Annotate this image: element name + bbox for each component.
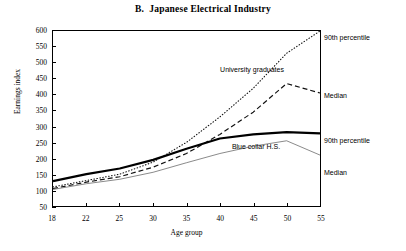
chart-series-lines <box>53 31 320 206</box>
chart-annotation: Blue collar H.S. <box>232 143 280 150</box>
chart-container: B. Japanese Electrical Industry Earnings… <box>0 0 406 251</box>
series-edge-label: 90th percentile <box>324 34 370 41</box>
x-tick-label: 30 <box>149 214 157 223</box>
y-tick-label: 350 <box>36 106 47 115</box>
x-tick-label: 55 <box>317 214 325 223</box>
x-tick-label: 50 <box>284 214 292 223</box>
y-tick-label: 450 <box>36 74 47 83</box>
x-tick-label: 18 <box>48 214 56 223</box>
y-tick-label: 50 <box>40 203 48 212</box>
y-tick-label: 150 <box>36 170 47 179</box>
chart-annotation: University graduates <box>220 66 284 73</box>
series-line <box>53 132 320 181</box>
plot-area <box>52 30 321 207</box>
x-tick-label: 35 <box>183 214 191 223</box>
chart-title: B. Japanese Electrical Industry <box>0 4 406 14</box>
series-edge-label: Median <box>324 92 347 99</box>
y-tick-label: 200 <box>36 154 47 163</box>
y-tick-label: 300 <box>36 122 47 131</box>
x-tick-label: 22 <box>82 214 90 223</box>
y-tick-label: 600 <box>36 26 47 35</box>
x-tick-label: 40 <box>216 214 224 223</box>
y-tick-label: 550 <box>36 42 47 51</box>
y-tick-label: 250 <box>36 138 47 147</box>
y-tick-label: 400 <box>36 90 47 99</box>
series-edge-label: Median <box>324 169 347 176</box>
series-edge-label: 90th percentile <box>324 137 370 144</box>
y-axis-ticklabels: 50100150200250300350400450500550600 <box>16 0 47 251</box>
y-tick-label: 500 <box>36 58 47 67</box>
series-line <box>53 31 320 187</box>
x-tick-label: 45 <box>250 214 258 223</box>
y-tick-mark <box>52 207 56 208</box>
y-tick-label: 100 <box>36 186 47 195</box>
x-axis-label: Age group <box>52 228 321 237</box>
x-tick-label: 25 <box>116 214 124 223</box>
